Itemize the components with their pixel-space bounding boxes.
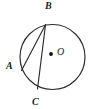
point-label-b: B <box>45 1 52 11</box>
chord-b-to-c <box>38 25 46 89</box>
circle-outline <box>20 25 85 90</box>
center-label-o: O <box>57 47 64 57</box>
point-label-a: A <box>6 61 13 71</box>
figure-canvas <box>0 0 96 109</box>
point-label-c: C <box>32 97 39 107</box>
chord-b-to-a <box>22 25 46 71</box>
center-point-dot-icon <box>49 52 53 56</box>
circle-geometry-figure: B A C O <box>0 0 96 109</box>
